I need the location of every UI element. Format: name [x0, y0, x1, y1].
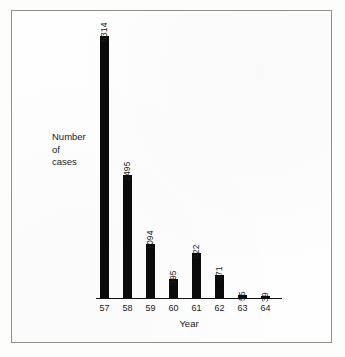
- x-tick-label-62: 62: [209, 303, 231, 313]
- x-axis-title: Year: [96, 318, 282, 329]
- y-axis-title-line-3: cases: [52, 156, 86, 169]
- x-tick-label-60: 60: [163, 303, 185, 313]
- x-tick-label-64: 64: [255, 303, 277, 313]
- x-tick-label-57: 57: [94, 303, 116, 313]
- figure: Number of cases 531457249558109459395609…: [0, 0, 345, 357]
- y-axis-title: Number of cases: [52, 131, 86, 169]
- plot-area: Number of cases 531457249558109459395609…: [0, 0, 345, 357]
- bar-value-label-58: 2495: [122, 161, 132, 181]
- x-axis-line: [96, 298, 282, 299]
- bar-value-label-63: 55: [237, 291, 247, 301]
- bar-value-label-59: 1094: [145, 230, 155, 250]
- x-tick-label-59: 59: [140, 303, 162, 313]
- bar-57: [100, 36, 109, 298]
- x-tick-label-63: 63: [232, 303, 254, 313]
- bar-61: [192, 253, 201, 298]
- bar-value-label-61: 922: [191, 244, 201, 259]
- y-axis-title-line-1: Number: [52, 131, 86, 144]
- bar-value-label-57: 5314: [99, 22, 109, 42]
- y-axis-title-line-2: of: [52, 144, 86, 157]
- bar-58: [123, 175, 132, 298]
- x-tick-label-61: 61: [186, 303, 208, 313]
- bar-value-label-60: 395: [168, 270, 178, 285]
- x-tick-label-58: 58: [117, 303, 139, 313]
- bar-value-label-62: 471: [214, 266, 224, 281]
- bar-59: [146, 244, 155, 298]
